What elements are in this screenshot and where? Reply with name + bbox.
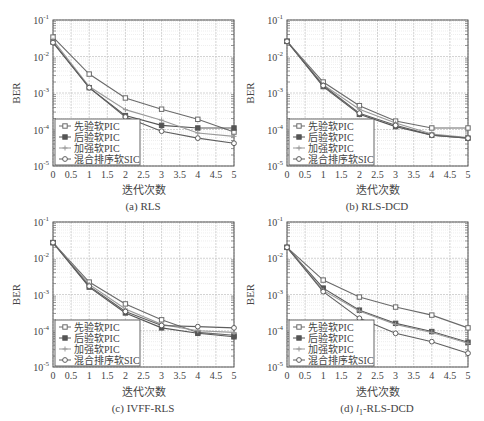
svg-text:1: 1	[321, 370, 326, 381]
svg-text:5: 5	[232, 169, 237, 180]
y-tick-labels: 10-510-410-310-210-1	[33, 215, 49, 373]
svg-text:2.5: 2.5	[371, 370, 384, 381]
chart-panel-d-l1-rls-dcd: 10-510-410-310-210-100.511.522.533.544.5…	[244, 215, 471, 398]
caption-b: (b) RLS-DCD	[346, 200, 409, 213]
svg-text:10-4: 10-4	[33, 324, 49, 337]
chart-panel-a-rls: 10-510-410-310-210-100.511.522.533.544.5…	[10, 13, 237, 196]
svg-text:0.5: 0.5	[65, 169, 78, 180]
x-tick-labels: 00.511.522.533.544.55	[51, 370, 237, 381]
square-marker-icon	[430, 126, 434, 130]
y-tick-labels: 10-510-410-310-210-1	[33, 13, 49, 172]
square-marker-icon	[297, 325, 301, 329]
x-tick-labels: 00.511.522.533.544.55	[285, 169, 471, 180]
circle-marker-icon	[232, 325, 237, 330]
svg-text:10-1: 10-1	[267, 13, 283, 26]
svg-text:4.5: 4.5	[444, 370, 457, 381]
caption-c: (c) IVFF-RLS	[112, 402, 175, 415]
chart-panel-b-rls-dcd: 10-510-410-310-210-100.511.522.533.544.5…	[244, 13, 471, 196]
svg-text:4.5: 4.5	[210, 169, 223, 180]
circle-marker-icon	[297, 157, 302, 162]
x-axis-label: 迭代次数	[122, 183, 166, 196]
circle-marker-icon	[87, 85, 92, 90]
circle-marker-icon	[321, 83, 326, 88]
legend-label: 加强软PIC	[308, 343, 354, 355]
square-marker-icon	[466, 126, 470, 130]
legend-label: 先验软PIC	[308, 120, 354, 132]
x-axis-label: 迭代次数	[122, 385, 166, 398]
filled-square-marker-icon	[232, 335, 236, 339]
circle-marker-icon	[297, 358, 302, 363]
square-marker-icon	[123, 302, 127, 306]
square-marker-icon	[87, 72, 91, 76]
circle-marker-icon	[195, 324, 200, 329]
svg-text:10-1: 10-1	[267, 215, 283, 228]
svg-text:0.5: 0.5	[65, 370, 78, 381]
svg-text:0.5: 0.5	[299, 370, 312, 381]
legend: 先验软PIC后验软PIC加强软PIC混合排序软SIC	[289, 320, 374, 366]
svg-text:4: 4	[429, 370, 434, 381]
legend-label: 混合排序软SIC	[74, 354, 140, 366]
circle-marker-icon	[393, 331, 398, 336]
legend: 先验软PIC后验软PIC加强软PIC混合排序软SIC	[55, 320, 140, 366]
svg-text:5: 5	[466, 370, 471, 381]
circle-marker-icon	[321, 289, 326, 294]
legend: 先验软PIC后验软PIC加强软PIC混合排序软SIC	[55, 119, 140, 165]
svg-text:0: 0	[51, 169, 56, 180]
svg-text:10-2: 10-2	[33, 251, 49, 264]
circle-marker-icon	[466, 136, 471, 141]
circle-marker-icon	[285, 245, 290, 250]
svg-text:2.5: 2.5	[371, 169, 384, 180]
svg-text:3: 3	[393, 370, 398, 381]
svg-text:10-5: 10-5	[267, 159, 283, 172]
circle-marker-icon	[123, 309, 128, 314]
y-axis-label: BER	[244, 82, 256, 104]
x-axis-label: 迭代次数	[356, 183, 400, 196]
svg-text:1.5: 1.5	[335, 370, 348, 381]
svg-text:3.5: 3.5	[173, 370, 186, 381]
svg-text:2: 2	[123, 370, 128, 381]
legend-label: 混合排序软SIC	[308, 153, 374, 165]
svg-text:3.5: 3.5	[173, 169, 186, 180]
svg-text:10-4: 10-4	[267, 123, 283, 136]
square-marker-icon	[159, 107, 163, 111]
ber-figure: 10-510-410-310-210-100.511.522.533.544.5…	[0, 0, 484, 421]
circle-marker-icon	[159, 323, 164, 328]
legend-label: 先验软PIC	[74, 120, 120, 132]
x-axis-label: 迭代次数	[356, 385, 400, 398]
svg-text:1.5: 1.5	[101, 169, 114, 180]
svg-text:10-2: 10-2	[267, 251, 283, 264]
legend-label: 混合排序软SIC	[74, 153, 140, 165]
y-tick-labels: 10-510-410-310-210-1	[267, 215, 283, 373]
svg-text:10-2: 10-2	[267, 50, 283, 63]
svg-text:0: 0	[285, 370, 290, 381]
filled-square-marker-icon	[297, 336, 301, 340]
legend: 先验软PIC后验软PIC加强软PIC混合排序软SIC	[289, 119, 374, 165]
circle-marker-icon	[51, 240, 56, 245]
svg-text:10-3: 10-3	[33, 288, 49, 301]
square-marker-icon	[357, 295, 361, 299]
square-marker-icon	[430, 313, 434, 317]
svg-text:5: 5	[466, 169, 471, 180]
filled-square-marker-icon	[63, 135, 67, 139]
filled-square-marker-icon	[232, 126, 236, 130]
y-tick-labels: 10-510-410-310-210-1	[267, 13, 283, 172]
svg-text:10-1: 10-1	[33, 13, 49, 26]
svg-text:4: 4	[429, 169, 434, 180]
circle-marker-icon	[63, 358, 68, 363]
circle-marker-icon	[51, 40, 56, 45]
svg-text:0.5: 0.5	[299, 169, 312, 180]
svg-text:1: 1	[87, 370, 92, 381]
svg-text:1: 1	[87, 169, 92, 180]
x-tick-labels: 00.511.522.533.544.55	[285, 370, 471, 381]
square-marker-icon	[393, 305, 397, 309]
circle-marker-icon	[393, 123, 398, 128]
svg-text:10-3: 10-3	[267, 86, 283, 99]
svg-text:10-5: 10-5	[267, 360, 283, 373]
svg-text:0: 0	[51, 370, 56, 381]
svg-text:1.5: 1.5	[101, 370, 114, 381]
svg-text:2: 2	[357, 169, 362, 180]
svg-text:2: 2	[123, 169, 128, 180]
svg-text:10-5: 10-5	[33, 159, 49, 172]
circle-marker-icon	[429, 133, 434, 138]
circle-marker-icon	[159, 129, 164, 134]
